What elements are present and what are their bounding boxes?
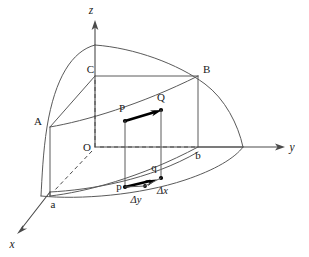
axis-x-arrowhead (17, 225, 27, 234)
dashed-O-to-a (54, 151, 92, 191)
label-delta-x: Δx (156, 185, 168, 196)
point-label-P-upper: P (119, 102, 125, 114)
vertex-label-B: B (203, 63, 210, 75)
point-label-Q-upper: Q (157, 91, 165, 103)
axis-label-z: z (88, 4, 94, 16)
axis-label-x: x (8, 238, 15, 250)
vertex-label-O: O (83, 141, 91, 153)
figure-container: z y x A B C O a b P Q p q Δx Δy (0, 0, 309, 257)
vector-PQ-shaft (125, 112, 155, 121)
vertex-label-A: A (34, 115, 42, 127)
geometry-diagram: z y x A B C O a b P Q p q Δx Δy (0, 0, 309, 257)
label-delta-y: Δy (130, 194, 142, 205)
edge-A-to-C (50, 76, 95, 127)
vertex-label-a: a (51, 198, 56, 210)
point-label-q-lower: q (151, 161, 157, 173)
vertex-label-b: b (195, 149, 201, 161)
axis-x-line (22, 192, 50, 228)
vertex-label-C: C (87, 63, 94, 75)
point-label-p-lower: p (116, 180, 122, 192)
axis-label-y: y (288, 141, 295, 154)
outer-arc-top (95, 45, 243, 147)
